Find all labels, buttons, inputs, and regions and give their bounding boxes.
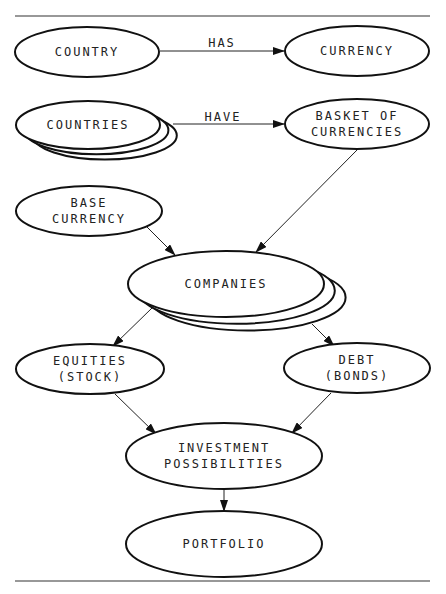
arrow bbox=[113, 308, 152, 346]
node-label: DEBT bbox=[339, 353, 376, 367]
node-label: COUNTRIES bbox=[46, 118, 129, 132]
edge-base-currency-to-companies bbox=[146, 226, 175, 255]
node-label: INVESTMENT bbox=[178, 441, 270, 455]
edge-country-to-currency: HAS bbox=[160, 36, 284, 51]
node-ellipse bbox=[126, 423, 322, 489]
node-investment-possibilities: INVESTMENTPOSSIBILITIES bbox=[126, 423, 322, 489]
investment-flow-diagram: HASHAVE COUNTRYCURRENCYCOUNTRIESBASKET O… bbox=[0, 0, 446, 594]
node-label: CURRENCIES bbox=[311, 125, 403, 139]
node-companies: COMPANIES bbox=[128, 251, 346, 331]
node-currency: CURRENCY bbox=[285, 26, 429, 76]
node-label: CURRENCY bbox=[320, 44, 394, 58]
arrow bbox=[146, 226, 175, 255]
edge-label: HAS bbox=[208, 36, 236, 50]
arrow bbox=[292, 393, 331, 433]
node-label: COMPANIES bbox=[184, 277, 267, 291]
edge-companies-to-equities bbox=[113, 308, 152, 346]
node-label: POSSIBILITIES bbox=[164, 457, 284, 471]
edge-debt-to-investment-possibilities bbox=[292, 393, 331, 433]
node-label: CURRENCY bbox=[52, 212, 126, 226]
node-label: (STOCK) bbox=[58, 370, 123, 384]
node-label: EQUITIES bbox=[53, 354, 127, 368]
node-label: BASE bbox=[71, 196, 108, 210]
node-ellipse bbox=[16, 186, 162, 236]
node-debt: DEBT(BONDS) bbox=[284, 343, 430, 393]
edge-equities-to-investment-possibilities bbox=[115, 394, 156, 434]
edge-countries-to-basket-of-currencies: HAVE bbox=[173, 110, 284, 124]
node-label: BASKET OF bbox=[315, 109, 398, 123]
node-label: COUNTRY bbox=[55, 45, 120, 59]
node-basket-of-currencies: BASKET OFCURRENCIES bbox=[285, 99, 429, 149]
node-label: PORTFOLIO bbox=[182, 537, 265, 551]
node-countries: COUNTRIES bbox=[16, 101, 177, 160]
arrow bbox=[312, 324, 334, 346]
node-ellipse bbox=[284, 343, 430, 393]
node-ellipse bbox=[285, 99, 429, 149]
edge-label: HAVE bbox=[205, 110, 242, 124]
nodes: COUNTRYCURRENCYCOUNTRIESBASKET OFCURRENC… bbox=[15, 26, 430, 577]
node-base-currency: BASECURRENCY bbox=[16, 186, 162, 236]
node-label: (BONDS) bbox=[325, 369, 390, 383]
arrow bbox=[256, 149, 358, 252]
node-portfolio: PORTFOLIO bbox=[126, 511, 322, 577]
node-ellipse bbox=[16, 344, 164, 394]
arrow bbox=[115, 394, 156, 434]
edge-basket-of-currencies-to-companies bbox=[256, 149, 358, 252]
node-equities: EQUITIES(STOCK) bbox=[16, 344, 164, 394]
node-country: COUNTRY bbox=[15, 27, 159, 77]
edge-companies-to-debt bbox=[312, 324, 334, 346]
